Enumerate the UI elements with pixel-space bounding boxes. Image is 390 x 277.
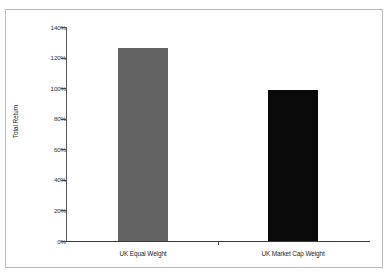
y-axis-tick-label-text: 0% bbox=[34, 238, 66, 245]
y-axis-tick-label: 60% bbox=[22, 146, 66, 153]
y-axis-title: Total Return bbox=[12, 92, 19, 152]
y-axis-tick-label-text: 140% bbox=[34, 24, 66, 31]
y-axis-tick-label-text: 80% bbox=[34, 115, 66, 122]
bar-1 bbox=[118, 48, 168, 241]
y-axis-tick-label-text: 20% bbox=[34, 207, 66, 214]
y-axis-line bbox=[66, 27, 67, 242]
y-axis-tick-label: 120% bbox=[22, 54, 66, 61]
y-axis-tick-label: 0% bbox=[22, 238, 66, 245]
y-axis-tick-label: 100% bbox=[22, 85, 66, 92]
y-axis-tick-label-text: 100% bbox=[34, 85, 66, 92]
y-axis-tick-label-text: 60% bbox=[34, 146, 66, 153]
y-axis-tick-label: 20% bbox=[22, 207, 66, 214]
bar-2 bbox=[268, 90, 318, 241]
chart-figure: 0%20%40%60%80%100%120%140% Total Return … bbox=[0, 0, 390, 277]
x-axis-category-label: UK Market Cap Weight bbox=[233, 250, 353, 257]
y-axis-tick-label: 140% bbox=[22, 24, 66, 31]
plot-area: 0%20%40%60%80%100%120%140% Total Return … bbox=[0, 0, 390, 277]
y-axis-tick-label: 40% bbox=[22, 176, 66, 183]
x-axis-category-label: UK Equal Weight bbox=[83, 250, 203, 257]
x-axis-center-tick bbox=[218, 241, 219, 245]
y-axis-tick-label: 80% bbox=[22, 115, 66, 122]
y-axis-tick-label-text: 120% bbox=[34, 54, 66, 61]
y-axis-tick-label-text: 40% bbox=[34, 176, 66, 183]
